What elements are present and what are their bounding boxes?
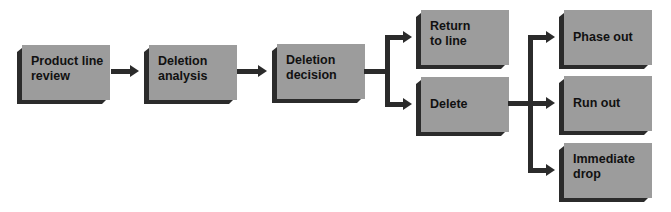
node-label-line1: Immediate <box>573 152 652 167</box>
node-label-line2: review <box>31 69 110 84</box>
box-face: Deletion decision <box>277 44 365 99</box>
box-face: Deletion analysis <box>149 45 237 100</box>
box-face: Immediate drop <box>564 143 652 198</box>
node-product-line-review: Product line review <box>17 45 110 104</box>
connector-analysis-to-decision <box>237 69 259 74</box>
node-label-line2: analysis <box>158 69 237 84</box>
connector-to-phase-out <box>528 35 547 40</box>
node-deletion-analysis: Deletion analysis <box>144 45 237 104</box>
node-label-line2: to line <box>430 34 509 49</box>
box-face: Phase out <box>564 10 652 65</box>
connector-delete-vertical <box>528 35 533 173</box>
node-delete: Delete <box>416 77 509 136</box>
box-face: Return to line <box>421 10 509 65</box>
node-label-line1: Delete <box>430 97 509 112</box>
connector-review-to-analysis <box>111 69 131 74</box>
box-face: Run out <box>564 76 652 131</box>
node-phase-out: Phase out <box>559 10 652 69</box>
arrowhead-icon <box>403 98 412 110</box>
node-label-line2: drop <box>573 167 652 182</box>
connector-decision-vertical <box>385 35 390 107</box>
arrowhead-icon <box>130 65 139 77</box>
node-immediate-drop: Immediate drop <box>559 143 652 202</box>
node-run-out: Run out <box>559 76 652 135</box>
node-return-to-line: Return to line <box>416 10 509 69</box>
connector-to-immediate-drop <box>528 168 547 173</box>
node-label-line1: Return <box>430 19 509 34</box>
box-face: Delete <box>421 77 509 132</box>
connector-to-return <box>385 35 404 40</box>
node-label-line1: Deletion <box>158 54 237 69</box>
arrowhead-icon <box>403 31 412 43</box>
node-label-line1: Run out <box>573 96 652 111</box>
connector-to-delete <box>385 102 404 107</box>
node-label-line1: Product line <box>31 54 110 69</box>
node-deletion-decision: Deletion decision <box>272 44 365 103</box>
box-face: Product line review <box>22 45 110 100</box>
arrowhead-icon <box>546 164 555 176</box>
node-label-line1: Phase out <box>573 30 652 45</box>
node-label-line1: Deletion <box>286 53 365 68</box>
arrowhead-icon <box>258 65 267 77</box>
arrowhead-icon <box>546 31 555 43</box>
node-label-line2: decision <box>286 68 365 83</box>
arrowhead-icon <box>546 97 555 109</box>
